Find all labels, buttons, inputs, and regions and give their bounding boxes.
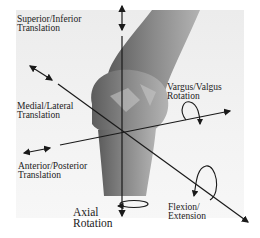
label-anterior-posterior: Anterior/PosteriorTranslation [18,162,87,180]
label-superior-inferior: Superior/InferiorTranslation [17,15,81,33]
vargus-valgus-rotation-icon [182,102,200,124]
tibia [98,128,156,196]
label-flexion-extension: Flexion/Extension [168,203,206,221]
anterior-posterior-arrow [24,148,50,153]
label-vargus-valgus: Vargus/ValgusRotation [167,83,222,101]
label-medial-lateral: Medial/LateralTranslation [17,102,73,120]
label-axial-rotation: AxialRotation [73,207,113,229]
flexion-extension-rotation-icon [194,166,217,200]
axial-rotation-icon [120,201,148,208]
medial-lateral-arrow [30,66,52,80]
